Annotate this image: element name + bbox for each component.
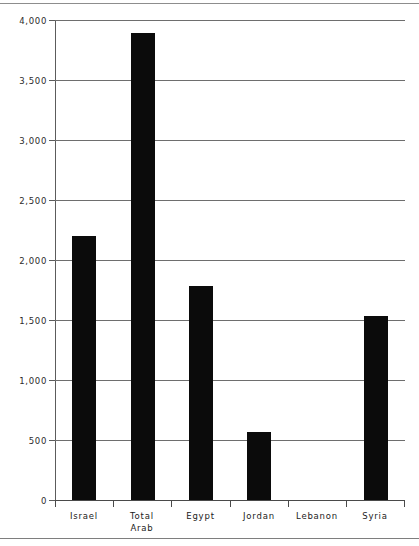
x-axis-label-syria: Syria [346,510,404,522]
x-axis-label-egypt: Egypt [171,510,230,522]
y-axis-label-1500: 1,500 [3,316,47,326]
bar-jordan [247,432,271,500]
y-axis-label-0: 0 [3,496,47,506]
gridline-2000 [55,260,405,261]
gridline-3000 [55,140,405,141]
page-bottom-rule [0,538,419,539]
y-axis-label-3000: 3,000 [3,136,47,146]
bar-egypt [189,286,213,500]
y-axis-label-2500: 2,500 [3,196,47,206]
page-top-rule [0,3,419,4]
x-tick-4 [288,501,289,507]
y-axis-label-3500: 3,500 [3,76,47,86]
x-tick-6 [404,501,405,507]
x-tick-0 [55,501,56,507]
gridline-4000 [55,20,405,21]
x-axis-label-total-arab: Total Arab [113,510,171,534]
x-tick-3 [230,501,231,507]
x-tick-5 [346,501,347,507]
gridline-500 [55,440,405,441]
bar-chart-figure: 4,000 3,500 3,000 2,500 2,000 1,500 1,00… [0,0,419,546]
gridline-3500 [55,80,405,81]
y-axis-label-4000: 4,000 [3,16,47,26]
y-axis-label-2000: 2,000 [3,256,47,266]
gridline-1500 [55,320,405,321]
x-tick-2 [171,501,172,507]
y-axis-label-1000: 1,000 [3,376,47,386]
x-tick-1 [113,501,114,507]
x-axis-label-israel: Israel [55,510,113,522]
gridline-2500 [55,200,405,201]
bar-total-arab [131,33,155,500]
y-axis-labels: 4,000 3,500 3,000 2,500 2,000 1,500 1,00… [0,0,47,546]
y-axis-label-500: 500 [3,436,47,446]
x-axis-label-jordan: Jordan [230,510,288,522]
bar-syria [364,316,388,500]
x-axis-label-lebanon: Lebanon [288,510,346,522]
bar-israel [72,236,96,500]
gridline-1000 [55,380,405,381]
plot-area [55,20,405,500]
